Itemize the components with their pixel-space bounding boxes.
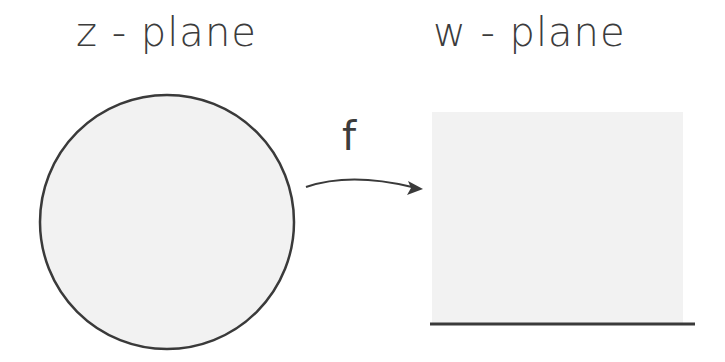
unit-disk	[40, 95, 294, 349]
diagram-canvas	[0, 0, 725, 362]
mapping-arrow-icon	[306, 180, 423, 196]
upper-half-plane-region	[432, 112, 683, 323]
